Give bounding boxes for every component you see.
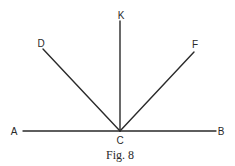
point-label-c: C — [116, 135, 123, 146]
point-label-k: K — [118, 10, 125, 21]
point-label-a: A — [11, 126, 18, 137]
geometry-diagram: A B C D K F Fig. 8 — [0, 0, 235, 166]
segment-cd — [43, 49, 120, 131]
figure-caption: Fig. 8 — [106, 148, 134, 162]
point-label-b: B — [218, 126, 225, 137]
segment-cf — [120, 52, 194, 131]
point-label-d: D — [37, 38, 44, 49]
point-label-f: F — [192, 39, 198, 50]
